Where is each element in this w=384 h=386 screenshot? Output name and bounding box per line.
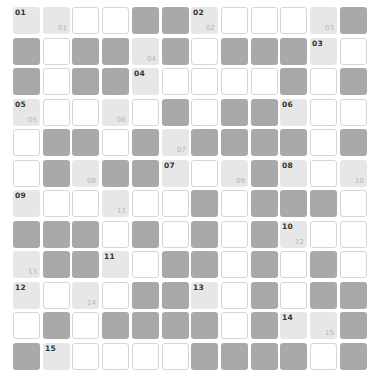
clue-cell[interactable]: 07 — [162, 160, 189, 187]
empty-cell[interactable] — [43, 38, 70, 65]
blocked-cell — [132, 221, 159, 248]
empty-cell[interactable] — [340, 38, 367, 65]
clue-cell[interactable]: 14 — [72, 282, 99, 309]
clue-cell[interactable]: 13 — [191, 282, 218, 309]
clue-cell[interactable]: 0202 — [191, 7, 218, 34]
clue-cell[interactable]: 08 — [72, 160, 99, 187]
answer-number: 08 — [87, 177, 96, 185]
clue-cell[interactable]: 10 — [340, 160, 367, 187]
clue-cell[interactable]: 08 — [280, 160, 307, 187]
blocked-cell — [162, 38, 189, 65]
clue-cell[interactable]: 03 — [310, 7, 337, 34]
empty-cell[interactable] — [310, 99, 337, 126]
blocked-cell — [191, 343, 218, 370]
clue-cell[interactable]: 09 — [221, 160, 248, 187]
empty-cell[interactable] — [72, 312, 99, 339]
empty-cell[interactable] — [221, 312, 248, 339]
empty-cell[interactable] — [162, 190, 189, 217]
blocked-cell — [102, 68, 129, 95]
blocked-cell — [191, 129, 218, 156]
clue-cell[interactable]: 06 — [102, 99, 129, 126]
empty-cell[interactable] — [13, 312, 40, 339]
blocked-cell — [340, 129, 367, 156]
empty-cell[interactable] — [102, 282, 129, 309]
empty-cell[interactable] — [43, 282, 70, 309]
blocked-cell — [162, 312, 189, 339]
clue-cell[interactable]: 11 — [102, 251, 129, 278]
empty-cell[interactable] — [340, 99, 367, 126]
empty-cell[interactable] — [43, 99, 70, 126]
empty-cell[interactable] — [43, 190, 70, 217]
empty-cell[interactable] — [221, 190, 248, 217]
answer-number: 04 — [147, 55, 156, 63]
empty-cell[interactable] — [191, 160, 218, 187]
clue-cell[interactable]: 06 — [280, 99, 307, 126]
empty-cell[interactable] — [43, 68, 70, 95]
empty-cell[interactable] — [310, 129, 337, 156]
blocked-cell — [191, 221, 218, 248]
empty-cell[interactable] — [13, 160, 40, 187]
empty-cell[interactable] — [251, 7, 278, 34]
clue-cell[interactable]: 09 — [13, 190, 40, 217]
empty-cell[interactable] — [310, 221, 337, 248]
empty-cell[interactable] — [102, 343, 129, 370]
empty-cell[interactable] — [72, 99, 99, 126]
empty-cell[interactable] — [72, 343, 99, 370]
empty-cell[interactable] — [132, 190, 159, 217]
blocked-cell — [13, 68, 40, 95]
empty-cell[interactable] — [102, 221, 129, 248]
empty-cell[interactable] — [102, 129, 129, 156]
clue-cell[interactable]: 11 — [102, 190, 129, 217]
empty-cell[interactable] — [280, 251, 307, 278]
blocked-cell — [191, 190, 218, 217]
blocked-cell — [251, 251, 278, 278]
empty-cell[interactable] — [191, 99, 218, 126]
clue-cell[interactable]: 03 — [310, 38, 337, 65]
empty-cell[interactable] — [221, 282, 248, 309]
empty-cell[interactable] — [310, 68, 337, 95]
empty-cell[interactable] — [102, 7, 129, 34]
clue-cell[interactable]: 04 — [132, 38, 159, 65]
empty-cell[interactable] — [280, 282, 307, 309]
empty-cell[interactable] — [162, 221, 189, 248]
empty-cell[interactable] — [132, 251, 159, 278]
clue-cell[interactable]: 0505 — [13, 99, 40, 126]
clue-cell[interactable]: 14 — [280, 312, 307, 339]
empty-cell[interactable] — [132, 343, 159, 370]
empty-cell[interactable] — [340, 251, 367, 278]
empty-cell[interactable] — [191, 68, 218, 95]
clue-cell[interactable]: 15 — [43, 343, 70, 370]
clue-cell[interactable]: 01 — [43, 7, 70, 34]
empty-cell[interactable] — [13, 129, 40, 156]
blocked-cell — [132, 7, 159, 34]
empty-cell[interactable] — [340, 190, 367, 217]
empty-cell[interactable] — [251, 68, 278, 95]
empty-cell[interactable] — [191, 38, 218, 65]
empty-cell[interactable] — [310, 160, 337, 187]
empty-cell[interactable] — [162, 343, 189, 370]
empty-cell[interactable] — [221, 251, 248, 278]
empty-cell[interactable] — [280, 7, 307, 34]
blocked-cell — [251, 282, 278, 309]
empty-cell[interactable] — [221, 68, 248, 95]
empty-cell[interactable] — [221, 7, 248, 34]
clue-cell[interactable]: 01 — [13, 7, 40, 34]
clue-cell[interactable]: 13 — [13, 251, 40, 278]
answer-number: 09 — [236, 177, 245, 185]
blocked-cell — [13, 343, 40, 370]
clue-number: 01 — [15, 8, 26, 17]
blocked-cell — [251, 129, 278, 156]
blocked-cell — [162, 7, 189, 34]
clue-cell[interactable]: 04 — [132, 68, 159, 95]
empty-cell[interactable] — [221, 221, 248, 248]
empty-cell[interactable] — [72, 7, 99, 34]
clue-cell[interactable]: 1012 — [280, 221, 307, 248]
clue-cell[interactable]: 12 — [13, 282, 40, 309]
clue-cell[interactable]: 15 — [310, 312, 337, 339]
empty-cell[interactable] — [340, 221, 367, 248]
clue-cell[interactable]: 07 — [162, 129, 189, 156]
empty-cell[interactable] — [310, 343, 337, 370]
empty-cell[interactable] — [162, 68, 189, 95]
empty-cell[interactable] — [72, 190, 99, 217]
empty-cell[interactable] — [132, 99, 159, 126]
